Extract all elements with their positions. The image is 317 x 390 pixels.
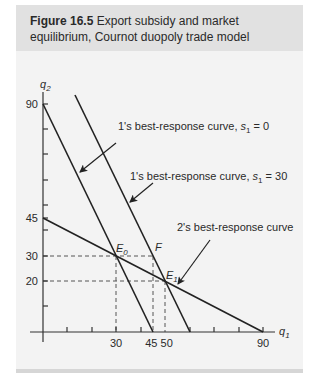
label-e0: E0 [116, 242, 128, 257]
x-tick-30: 30 [110, 337, 122, 349]
x-axis-label: q1 [279, 325, 290, 340]
y-tick-30: 30 [26, 250, 38, 262]
x-tick-45-50: 45 50 [145, 337, 173, 349]
chart-canvas: 1's best-response curve, s1 = 0 1's best… [0, 0, 317, 390]
label-br1-s30: 1's best-response curve, s1 = 30 [130, 170, 287, 185]
x-tick-90: 90 [257, 337, 269, 349]
y-tick-90: 90 [26, 98, 38, 110]
arrow-br1-s30 [130, 183, 153, 202]
label-e1: E1 [166, 269, 178, 284]
arrow-br2 [178, 240, 210, 284]
y-axis-label: q2 [40, 78, 51, 93]
br1-s0-curve [43, 104, 153, 332]
label-br1-s0: 1's best-response curve, s1 = 0 [118, 120, 269, 135]
y-tick-45: 45 [26, 212, 38, 224]
label-br2: 2's best-response curve [177, 221, 293, 233]
label-f: F [155, 241, 163, 253]
y-tick-20: 20 [26, 275, 38, 287]
